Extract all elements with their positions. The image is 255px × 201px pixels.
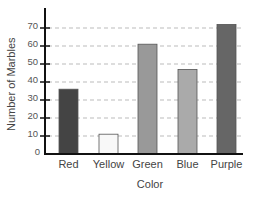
- bar-yellow: [99, 134, 118, 154]
- bar-green: [138, 44, 157, 154]
- y-axis-label: Number of Marbles: [5, 45, 17, 131]
- y-tick-label: 60: [18, 39, 38, 49]
- y-tick-label: 70: [18, 21, 38, 31]
- y-tick-label: 10: [18, 129, 38, 139]
- x-tick-label: Green: [128, 158, 168, 170]
- x-tick-label: Blue: [168, 158, 208, 170]
- x-tick-label: Red: [49, 158, 89, 170]
- x-axis-label: Color: [120, 178, 180, 190]
- plot-area: [0, 0, 255, 201]
- y-tick-label: 0: [20, 147, 40, 157]
- bar-red: [59, 89, 78, 154]
- bar-purple: [217, 24, 236, 154]
- y-tick-label: 50: [18, 57, 38, 67]
- y-tick-label: 20: [18, 111, 38, 121]
- x-tick-label: Yellow: [89, 158, 129, 170]
- bar-blue: [178, 69, 197, 154]
- bar-chart: 010203040506070 RedYellowGreenBluePurple…: [0, 0, 255, 201]
- bars: [59, 24, 236, 154]
- x-tick-label: Purple: [207, 158, 247, 170]
- y-tick-label: 40: [18, 75, 38, 85]
- y-tick-label: 30: [18, 93, 38, 103]
